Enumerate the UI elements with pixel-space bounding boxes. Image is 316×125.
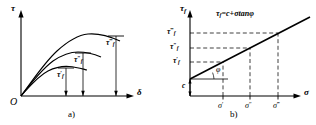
y-tick-tau-f-prime: τ′f [173, 56, 180, 66]
subscript-glyph: f [177, 45, 179, 51]
label-tau-f-triple-prime: τ‴f [106, 38, 114, 48]
panel-b: τf σ τf=c+σtanφ φ c τ‴f τ″f τ′f σ′ σ″ σ‴… [158, 0, 316, 125]
subscript-glyph: f [62, 73, 64, 79]
cohesion-label-c: c [182, 82, 185, 90]
prime-glyph: ′ [222, 100, 223, 107]
subscript-glyph: f [178, 59, 180, 65]
equation-rest: =c+σtanφ [221, 9, 253, 18]
subscript-glyph: f [184, 7, 186, 14]
angle-arc-phi [213, 73, 214, 79]
panel-a-origin-label: O [10, 97, 17, 107]
panel-a-x-axis [21, 93, 134, 98]
panel-a: τ δ O τ′f τ″f τ‴f a) [0, 0, 158, 125]
panel-b-caption: b) [230, 110, 238, 119]
panel-b-x-axis [190, 93, 301, 98]
panel-a-caption: a) [68, 110, 75, 119]
curve-tau-f-prime [21, 66, 87, 96]
x-tick-sigma-prime: σ′ [218, 101, 223, 110]
subscript-glyph: f [174, 30, 176, 36]
x-tick-sigma-double-prime: σ″ [245, 101, 252, 110]
panel-a-y-axis-label: τ [11, 4, 15, 13]
panel-b-y-axis-label: τf [180, 4, 186, 14]
subscript-glyph: f [113, 41, 115, 47]
panel-b-x-axis-label: σ [304, 88, 309, 97]
panel-a-x-axis-label: δ [137, 88, 142, 97]
construction-lines-sigma-triple-prime [190, 33, 278, 96]
panel-a-y-axis [18, 10, 23, 96]
x-tick-sigma-triple-prime: σ‴ [273, 101, 280, 110]
subscript-glyph: f [81, 58, 83, 64]
cohesion-intercept-marker [188, 79, 191, 96]
failure-criterion-equation: τf=c+σtanφ [216, 10, 254, 19]
y-tick-tau-f-double-prime: τ″f [170, 42, 178, 52]
label-tau-f-double-prime: τ″f [74, 55, 82, 65]
prime-glyph: ″ [249, 100, 252, 107]
y-tick-tau-f-triple-prime: τ‴f [167, 27, 175, 37]
label-tau-f-prime: τ′f [57, 70, 64, 80]
figure-container: τ δ O τ′f τ″f τ‴f a) [0, 0, 316, 125]
angle-label-phi: φ [216, 66, 220, 74]
prime-glyph: ‴ [277, 100, 280, 107]
